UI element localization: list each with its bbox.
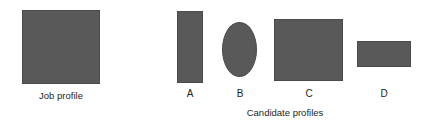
candidate-c-shape [274, 19, 343, 81]
job-profile-caption: Job profile [0, 90, 122, 101]
profile-fit-diagram: Job profile A B C D Candidate profiles [0, 0, 430, 127]
candidate-profiles-caption: Candidate profiles [215, 107, 355, 118]
candidate-d-shape [357, 41, 411, 67]
candidate-c-label: C [279, 88, 339, 99]
candidate-d-label: D [354, 88, 414, 99]
candidate-b-shape [222, 22, 257, 77]
candidate-b-label: B [210, 88, 270, 99]
candidate-a-shape [177, 11, 203, 83]
job-profile-shape [22, 10, 100, 84]
